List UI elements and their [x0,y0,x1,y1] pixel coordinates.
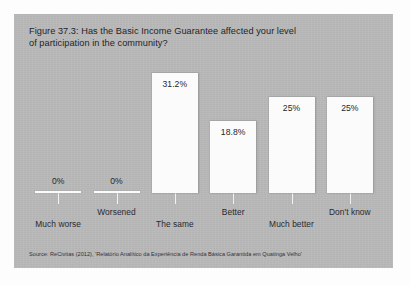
bar-value-label: 25% [327,103,373,113]
bar-value-label: 0% [35,176,81,186]
category-label-the-same: The same [156,219,194,229]
category-label-don-t-know: Don't know [329,207,371,217]
category-label-much-better: Much better [269,219,314,229]
plot-area: 0%0%31.2%18.8%25%25% [29,58,379,193]
bar-the-same[interactable]: 31.2% [152,73,198,193]
bar-much-better[interactable]: 25% [269,97,315,193]
figure-page: Figure 37.3: Has the Basic Income Guaran… [0,0,410,286]
category-label-worsened: Worsened [97,207,135,217]
figure-panel: Figure 37.3: Has the Basic Income Guaran… [14,14,393,268]
bar-better[interactable]: 18.8% [210,121,256,194]
bar-value-label: 25% [269,103,315,113]
chart-title: Figure 37.3: Has the Basic Income Guaran… [29,25,359,50]
category-label-better: Better [222,207,245,217]
category-axis-labels: Much worseWorsenedThe sameBetterMuch bet… [29,193,379,233]
bar-don-t-know[interactable]: 25% [327,97,373,193]
bar-value-label: 18.8% [210,127,256,137]
category-label-much-worse: Much worse [35,219,81,229]
source-note: Source: ReCivitas (2012), 'Relatório Ana… [29,250,379,258]
bar-value-label: 31.2% [152,79,198,89]
bar-value-label: 0% [94,176,140,186]
